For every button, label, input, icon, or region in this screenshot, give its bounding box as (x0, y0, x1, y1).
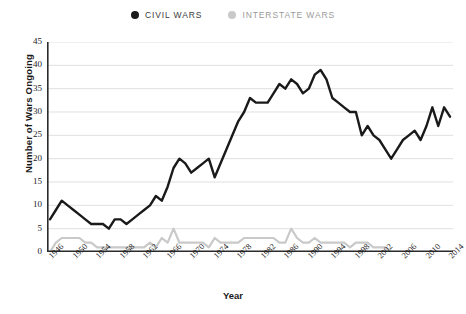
circle-dot-icon (228, 11, 236, 19)
legend-label-interstate-wars: INTERSTATE WARS (242, 10, 335, 20)
plot-svg (47, 42, 453, 252)
y-axis-tick-label: 40 (33, 60, 42, 69)
y-axis-tick-label: 45 (33, 37, 42, 46)
y-axis-tick-label: 10 (33, 200, 42, 209)
y-axis-tick-label: 35 (33, 84, 42, 93)
plot-area (47, 42, 453, 252)
x-axis-tick-labels: 1946195019541958196219661970197419781982… (47, 254, 453, 294)
y-axis-tick-label: 0 (38, 247, 43, 256)
legend-item-interstate-wars: INTERSTATE WARS (228, 10, 335, 20)
y-axis-tick-label: 20 (33, 154, 42, 163)
war-trends-line-chart: CIVIL WARS INTERSTATE WARS 0510152025303… (0, 0, 466, 314)
gridlines (47, 42, 453, 252)
chart-legend: CIVIL WARS INTERSTATE WARS (0, 10, 466, 20)
y-axis-tick-label: 15 (33, 177, 42, 186)
y-axis-tick-label: 25 (33, 130, 42, 139)
y-axis-tick-label: 30 (33, 107, 42, 116)
series-line-civil-wars (50, 70, 450, 229)
data-series-group (50, 70, 450, 252)
circle-dot-icon (131, 11, 139, 19)
y-axis-tick-label: 5 (38, 224, 43, 233)
x-axis-title: Year (0, 290, 466, 301)
legend-label-civil-wars: CIVIL WARS (145, 10, 203, 20)
legend-item-civil-wars: CIVIL WARS (131, 10, 203, 20)
y-axis-title: Number of Wars Ongoing (23, 44, 34, 184)
